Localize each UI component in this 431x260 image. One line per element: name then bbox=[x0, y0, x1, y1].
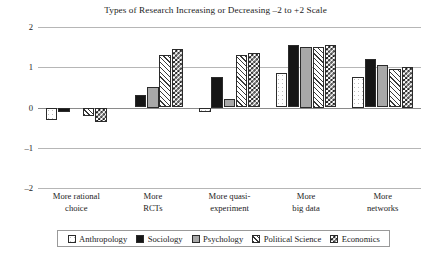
legend-item-sociology[interactable]: Sociology bbox=[136, 234, 182, 244]
bar-sociology bbox=[365, 59, 376, 107]
legend-item-psychology[interactable]: Psychology bbox=[192, 234, 244, 244]
bar-group bbox=[352, 27, 413, 188]
chart-legend: AnthropologySociologyPsychologyPolitical… bbox=[57, 230, 390, 247]
legend-item-economics[interactable]: Economics bbox=[330, 234, 380, 244]
bar-economics bbox=[402, 67, 413, 107]
plot-area: 210–1–2 bbox=[38, 27, 421, 188]
bar-psychology bbox=[300, 47, 311, 107]
legend-label: Sociology bbox=[148, 234, 183, 244]
legend-swatch-icon bbox=[192, 235, 200, 243]
bar-psychology bbox=[377, 65, 388, 107]
y-axis-tick-label: –2 bbox=[24, 183, 33, 193]
x-axis-category-label: More rationalchoice bbox=[38, 191, 115, 214]
bar-economics bbox=[325, 45, 336, 107]
bar-sociology bbox=[58, 108, 69, 112]
y-axis-tick-label: 2 bbox=[29, 22, 33, 32]
legend-swatch-icon bbox=[330, 235, 338, 243]
legend-label: Anthropology bbox=[79, 234, 127, 244]
bar-politicalscience bbox=[313, 47, 324, 107]
chart-title: Types of Research Increasing or Decreasi… bbox=[0, 5, 431, 15]
bar-group bbox=[199, 27, 260, 188]
bar-sociology bbox=[288, 45, 299, 107]
x-axis-category-line: More quasi- bbox=[191, 191, 268, 203]
x-axis-category-line: networks bbox=[344, 203, 421, 215]
bar-economics bbox=[248, 53, 259, 107]
y-axis-tick-label: 0 bbox=[29, 103, 33, 113]
legend-item-politicalscience[interactable]: Political Science bbox=[252, 234, 321, 244]
chart-figure: Types of Research Increasing or Decreasi… bbox=[0, 0, 431, 260]
bar-group bbox=[46, 27, 107, 188]
bar-group bbox=[276, 27, 337, 188]
bar-sociology bbox=[135, 95, 146, 107]
bar-politicalscience bbox=[83, 108, 94, 116]
bar-anthropology bbox=[199, 108, 210, 112]
y-axis-tick-label: –1 bbox=[24, 143, 33, 153]
bars-layer bbox=[38, 27, 421, 188]
x-axis-category-line: More rational bbox=[38, 191, 115, 203]
y-axis-tick-label: 1 bbox=[29, 62, 33, 72]
x-axis-category-line: choice bbox=[38, 203, 115, 215]
bar-economics bbox=[172, 49, 183, 107]
bar-psychology bbox=[224, 99, 235, 107]
legend-label: Political Science bbox=[264, 234, 322, 244]
bar-group bbox=[123, 27, 184, 188]
legend-label: Economics bbox=[342, 234, 380, 244]
x-axis-category-label: Morebig data bbox=[268, 191, 345, 214]
legend-swatch-icon bbox=[68, 235, 76, 243]
x-axis-category-label: MoreRCTs bbox=[115, 191, 192, 214]
bar-politicalscience bbox=[236, 55, 247, 107]
legend-swatch-icon bbox=[252, 235, 260, 243]
x-axis-category-label: Morenetworks bbox=[344, 191, 421, 214]
legend-swatch-icon bbox=[136, 235, 144, 243]
bar-psychology bbox=[147, 87, 158, 107]
legend-label: Psychology bbox=[203, 234, 243, 244]
bar-anthropology bbox=[276, 73, 287, 107]
bar-politicalscience bbox=[159, 55, 170, 107]
bar-anthropology bbox=[46, 108, 57, 120]
bar-sociology bbox=[211, 77, 222, 107]
x-axis-category-label: More quasi-experiment bbox=[191, 191, 268, 214]
gridline-neg2: –2 bbox=[38, 188, 421, 189]
x-axis-category-line: big data bbox=[268, 203, 345, 215]
x-axis-category-line: experiment bbox=[191, 203, 268, 215]
bar-economics bbox=[95, 108, 106, 122]
x-axis-category-line: RCTs bbox=[115, 203, 192, 215]
legend-item-anthropology[interactable]: Anthropology bbox=[68, 234, 128, 244]
x-axis-category-line: More bbox=[268, 191, 345, 203]
x-axis-category-line: More bbox=[115, 191, 192, 203]
x-axis-category-line: More bbox=[344, 191, 421, 203]
bar-politicalscience bbox=[389, 69, 400, 107]
x-axis-labels: More rationalchoiceMoreRCTsMore quasi-ex… bbox=[38, 191, 421, 221]
bar-anthropology bbox=[352, 77, 363, 107]
